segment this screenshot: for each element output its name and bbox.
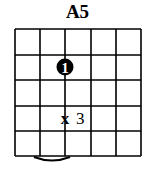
- fretboard-grid: [15, 29, 141, 156]
- marker-label: 3: [76, 109, 85, 128]
- x-icon: x: [61, 109, 70, 128]
- chord-diagram: 1 x 3: [0, 0, 155, 171]
- finger-number: 1: [61, 60, 69, 76]
- x-marker: x 3: [61, 109, 85, 128]
- finger-dot: 1: [57, 59, 74, 76]
- bottom-arc: [34, 157, 70, 161]
